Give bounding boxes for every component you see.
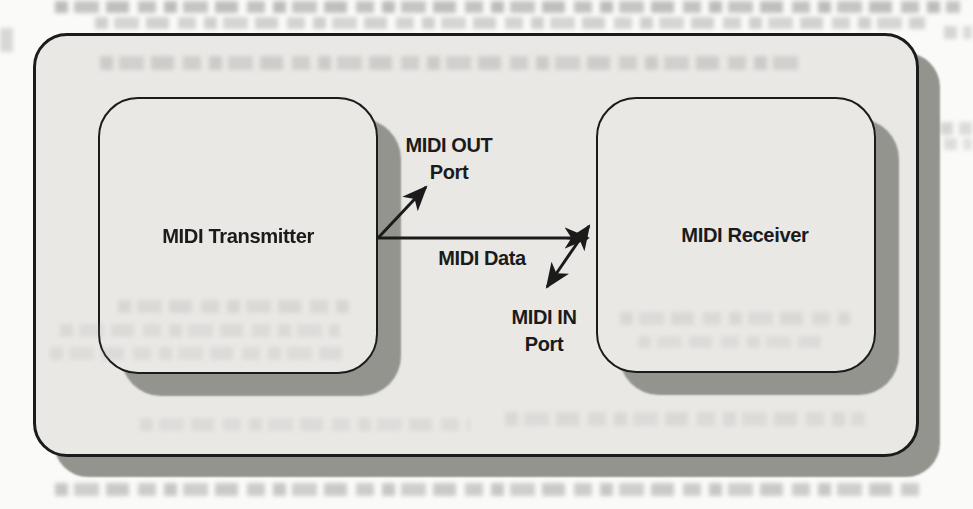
bleed-through-smudge — [100, 56, 805, 70]
bleed-through-smudge — [940, 122, 972, 135]
midi-data-label: MIDI Data — [436, 245, 528, 272]
bleed-through-smudge — [95, 17, 925, 29]
bleed-through-smudge — [140, 418, 470, 431]
midi-in-port-label-line1: MIDI IN — [492, 304, 596, 331]
bleed-through-smudge — [944, 26, 972, 39]
bleed-through-smudge — [944, 138, 972, 150]
bleed-through-smudge — [118, 300, 350, 313]
midi-in-port-label: MIDI IN Port — [492, 304, 596, 358]
bleed-through-smudge — [50, 347, 350, 360]
bleed-through-smudge — [0, 28, 18, 52]
midi-out-port-label-line2: Port — [397, 159, 501, 186]
midi-out-port-label-line1: MIDI OUT — [397, 132, 501, 159]
bleed-through-smudge — [55, 483, 925, 496]
bleed-through-smudge — [620, 312, 850, 325]
bleed-through-smudge — [505, 412, 865, 426]
bleed-through-smudge — [638, 336, 823, 348]
midi-transmitter-label: MIDI Transmitter — [162, 224, 314, 248]
midi-receiver-box: MIDI Receiver — [596, 97, 876, 373]
midi-out-port-label: MIDI OUT Port — [397, 132, 501, 186]
midi-receiver-label: MIDI Receiver — [681, 223, 808, 247]
bleed-through-smudge — [55, 1, 960, 13]
bleed-through-smudge — [60, 324, 340, 337]
scanned-book-page: MIDI Transmitter MIDI Receiver MIDI OUT … — [0, 0, 973, 509]
midi-in-port-label-line2: Port — [492, 331, 596, 358]
